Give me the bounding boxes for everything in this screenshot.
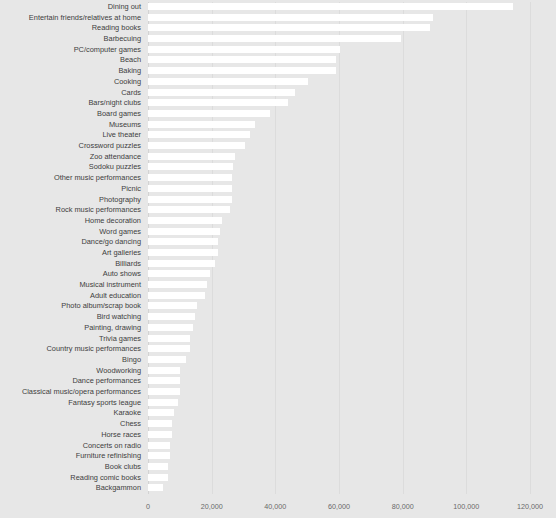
bar-row — [148, 88, 530, 99]
category-label: Word games — [99, 227, 141, 238]
category-label: Dining out — [108, 2, 141, 13]
bar-row — [148, 483, 530, 494]
bar — [148, 260, 215, 267]
bar — [148, 35, 401, 42]
bar — [148, 399, 178, 406]
bar — [148, 409, 174, 416]
bar-row — [148, 152, 530, 163]
bar-chart: Dining outEntertain friends/relatives at… — [0, 0, 556, 518]
x-tick-label: 60,000 — [328, 502, 350, 511]
category-label: Reading comic books — [70, 473, 141, 484]
bar-row — [148, 312, 530, 323]
bar — [148, 484, 163, 491]
category-label: Backgammon — [96, 483, 141, 494]
bar — [148, 78, 308, 85]
x-tick-label: 0 — [146, 502, 150, 511]
x-tick-label: 120,000 — [517, 502, 543, 511]
bar-row — [148, 323, 530, 334]
category-label: Woodworking — [96, 366, 141, 377]
category-label: Bars/night clubs — [88, 98, 141, 109]
bar — [148, 238, 218, 245]
category-label: Book clubs — [105, 462, 141, 473]
category-label: PC/computer games — [74, 45, 141, 56]
bar-rows — [148, 2, 530, 494]
bar-row — [148, 344, 530, 355]
category-label: Art galleries — [102, 248, 141, 259]
x-tick-label: 40,000 — [264, 502, 286, 511]
bar-row — [148, 23, 530, 34]
category-label: Entertain friends/relatives at home — [29, 13, 141, 24]
category-label: Chess — [120, 419, 141, 430]
bar-row — [148, 473, 530, 484]
bar — [148, 377, 180, 384]
bar — [148, 228, 220, 235]
bar — [148, 14, 433, 21]
bar-row — [148, 227, 530, 238]
bar-row — [148, 162, 530, 173]
bar — [148, 324, 193, 331]
bar-row — [148, 269, 530, 280]
bar-row — [148, 195, 530, 206]
category-label: Crossword puzzles — [79, 141, 141, 152]
category-label: Dance/go dancing — [81, 237, 141, 248]
bar-row — [148, 55, 530, 66]
bar — [148, 24, 430, 31]
bar-row — [148, 13, 530, 24]
bar-row — [148, 462, 530, 473]
bar — [148, 153, 235, 160]
bar — [148, 388, 180, 395]
category-label: Fantasy sports league — [68, 398, 141, 409]
bar — [148, 474, 168, 481]
bar — [148, 452, 170, 459]
bar-row — [148, 441, 530, 452]
bar-row — [148, 376, 530, 387]
bar-row — [148, 237, 530, 248]
bar-row — [148, 216, 530, 227]
bar — [148, 431, 172, 438]
bar — [148, 335, 190, 342]
bar-row — [148, 98, 530, 109]
bar — [148, 356, 186, 363]
category-label: Auto shows — [103, 269, 141, 280]
category-label: Zoo attendance — [90, 152, 141, 163]
category-label: Billiards — [115, 259, 141, 270]
bar-row — [148, 184, 530, 195]
bar — [148, 420, 172, 427]
bar-row — [148, 451, 530, 462]
category-axis-labels: Dining outEntertain friends/relatives at… — [0, 2, 141, 494]
plot-area — [148, 2, 530, 494]
category-label: Cooking — [114, 77, 141, 88]
category-label: Photo album/scrap book — [61, 301, 141, 312]
category-label: Cards — [121, 88, 141, 99]
bar-row — [148, 334, 530, 345]
category-label: Karaoke — [113, 408, 141, 419]
category-label: Trivia games — [99, 334, 141, 345]
x-tick-label: 80,000 — [392, 502, 414, 511]
category-label: Live theater — [102, 130, 141, 141]
category-label: Photography — [99, 195, 141, 206]
category-label: Furniture refinishing — [76, 451, 141, 462]
bar — [148, 185, 232, 192]
bar-row — [148, 248, 530, 259]
bar-row — [148, 66, 530, 77]
category-label: Other music performances — [54, 173, 141, 184]
bar — [148, 131, 250, 138]
bar-row — [148, 280, 530, 291]
bar-row — [148, 34, 530, 45]
category-label: Painting, drawing — [84, 323, 141, 334]
bar — [148, 3, 513, 10]
category-label: Home decoration — [85, 216, 141, 227]
bar-row — [148, 141, 530, 152]
category-label: Museums — [109, 120, 141, 131]
x-axis: 020,00040,00060,00080,000100,000120,000 — [0, 498, 556, 518]
bar-row — [148, 419, 530, 430]
bar-row — [148, 301, 530, 312]
bar — [148, 249, 218, 256]
bar — [148, 99, 288, 106]
bar — [148, 89, 295, 96]
bar-row — [148, 430, 530, 441]
category-label: Dance performances — [72, 376, 141, 387]
bar-row — [148, 387, 530, 398]
bar — [148, 67, 336, 74]
category-label: Bird watching — [97, 312, 141, 323]
